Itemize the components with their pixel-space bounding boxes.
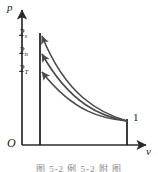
figure-caption: 图 5-2 例 5-2 附 图: [0, 162, 158, 172]
curve-isothermal-2T: [42, 72, 127, 121]
point-label-2n: 2n: [19, 45, 28, 56]
origin-label: O: [7, 137, 16, 149]
y-axis-label: p: [7, 2, 13, 13]
point-label-2T-subscript: T: [25, 68, 29, 75]
point-label-2s-subscript: s: [25, 32, 28, 39]
point-label-2T: 2T: [19, 63, 28, 74]
point-label-2n-subscript: n: [25, 50, 28, 57]
point-label-2s: 2s: [19, 27, 27, 38]
point-label-2n-base: 2: [19, 44, 25, 56]
curve-isentropic-2s: [42, 36, 127, 121]
point-label-2s-base: 2: [19, 26, 25, 38]
point-label-1: 1: [133, 112, 139, 123]
pv-diagram-figure: p v O 2s 2n 2T 1 图 5-2 例 5-2 附 图: [0, 0, 158, 172]
x-axis-label: v: [146, 146, 151, 157]
point-label-2T-base: 2: [19, 62, 25, 74]
